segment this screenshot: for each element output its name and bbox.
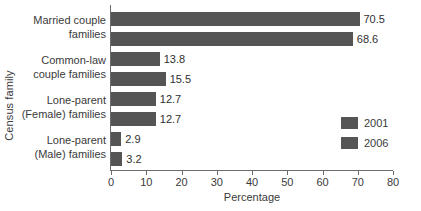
bar-value-lone-parent-female-families-2006: 12.7 — [160, 112, 181, 126]
legend-swatch-2006 — [341, 137, 358, 149]
legend-item-2006[interactable]: 2006 — [341, 135, 388, 151]
category-label-line-2: families — [0, 28, 106, 42]
x-tick-70 — [358, 171, 359, 175]
bar-value-common-law-couple-families-2001: 13.8 — [164, 52, 185, 66]
legend-swatch-2001 — [341, 117, 358, 129]
x-tick-20 — [182, 171, 183, 175]
category-label-line-2: (Female) families — [0, 108, 106, 122]
category-label-line-2: (Male) families — [0, 148, 106, 162]
bar-lone-parent-male-families-2006 — [111, 152, 122, 166]
x-tick-label-70: 70 — [343, 176, 373, 188]
bar-value-married-couple-families-2006: 68.6 — [357, 32, 378, 46]
category-label-line-1: Common-law — [41, 54, 106, 66]
x-tick-80 — [393, 171, 394, 175]
x-tick-0 — [111, 171, 112, 175]
x-tick-40 — [252, 171, 253, 175]
bar-value-lone-parent-male-families-2001: 2.9 — [125, 132, 140, 146]
x-axis-title: Percentage — [111, 191, 393, 203]
bar-common-law-couple-families-2001 — [111, 52, 160, 66]
y-axis-line — [110, 5, 111, 171]
x-tick-label-80: 80 — [378, 176, 408, 188]
x-tick-50 — [287, 171, 288, 175]
bar-lone-parent-male-families-2001 — [111, 132, 121, 146]
category-label-line-1: Married couple — [33, 14, 106, 26]
category-label-line-2: couple families — [0, 68, 106, 82]
category-label-line-1: Lone-parent — [47, 94, 106, 106]
bar-married-couple-families-2006 — [111, 32, 353, 46]
bar-lone-parent-female-families-2006 — [111, 112, 156, 126]
x-tick-label-40: 40 — [237, 176, 267, 188]
bar-common-law-couple-families-2006 — [111, 72, 166, 86]
x-tick-10 — [146, 171, 147, 175]
legend: 2001 2006 — [341, 115, 388, 155]
bar-married-couple-families-2001 — [111, 12, 360, 26]
bar-value-common-law-couple-families-2006: 15.5 — [170, 72, 191, 86]
x-tick-label-60: 60 — [308, 176, 338, 188]
category-label-line-1: Lone-parent — [47, 134, 106, 146]
x-tick-label-30: 30 — [202, 176, 232, 188]
x-tick-label-10: 10 — [131, 176, 161, 188]
legend-item-2001[interactable]: 2001 — [341, 115, 388, 131]
bar-lone-parent-female-families-2001 — [111, 92, 156, 106]
legend-label-2001: 2001 — [364, 117, 388, 129]
category-label-lone-parent-male-families: Lone-parent (Male) families — [0, 134, 106, 161]
bar-value-married-couple-families-2001: 70.5 — [364, 12, 385, 26]
x-tick-label-20: 20 — [167, 176, 197, 188]
category-label-married-couple-families: Married couple families — [0, 14, 106, 41]
category-label-common-law-couple-families: Common-law couple families — [0, 54, 106, 81]
bar-chart: Census family Married couple families Co… — [0, 0, 421, 211]
x-tick-label-50: 50 — [272, 176, 302, 188]
legend-label-2006: 2006 — [364, 137, 388, 149]
bar-value-lone-parent-male-families-2006: 3.2 — [126, 152, 141, 166]
x-tick-label-0: 0 — [96, 176, 126, 188]
category-label-lone-parent-female-families: Lone-parent (Female) families — [0, 94, 106, 121]
x-tick-30 — [217, 171, 218, 175]
x-tick-60 — [323, 171, 324, 175]
bar-value-lone-parent-female-families-2001: 12.7 — [160, 92, 181, 106]
